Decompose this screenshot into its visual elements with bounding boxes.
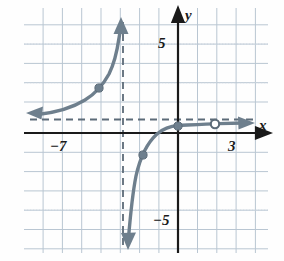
open-point <box>211 120 219 128</box>
x-axis-label: x <box>259 118 267 133</box>
y-tick-label-negative-five: −5 <box>153 213 170 228</box>
y-axis-label: y <box>185 8 192 23</box>
y-tick-label-five: 5 <box>158 36 166 51</box>
closed-point <box>174 122 182 130</box>
closed-point <box>95 84 103 92</box>
graph-figure: x y −7 3 5 −5 <box>0 0 284 261</box>
closed-point <box>139 151 147 159</box>
x-tick-label-three: 3 <box>228 139 236 154</box>
x-tick-label-negative-seven: −7 <box>50 139 67 154</box>
plot-svg <box>0 0 284 261</box>
